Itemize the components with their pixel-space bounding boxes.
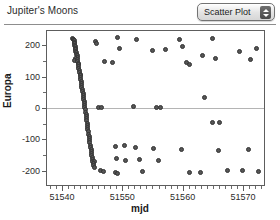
x-tick-minor bbox=[249, 186, 250, 189]
x-tick-label: 51540 bbox=[50, 192, 75, 202]
data-point bbox=[113, 144, 118, 149]
data-point bbox=[140, 169, 145, 174]
x-tick-minor bbox=[140, 186, 141, 189]
data-point bbox=[94, 41, 99, 46]
x-tick-minor bbox=[50, 186, 51, 189]
x-tick-minor bbox=[207, 186, 208, 189]
x-tick-minor bbox=[231, 186, 232, 189]
x-tick-minor bbox=[146, 186, 147, 189]
data-point bbox=[134, 37, 139, 42]
data-point bbox=[101, 169, 106, 174]
data-point bbox=[237, 49, 242, 54]
x-tick-minor bbox=[195, 186, 196, 189]
x-tick-minor bbox=[219, 186, 220, 189]
x-tick-minor bbox=[134, 186, 135, 189]
data-point bbox=[158, 105, 163, 110]
data-point bbox=[256, 169, 261, 174]
data-point bbox=[131, 104, 136, 109]
data-point bbox=[122, 143, 127, 148]
data-point bbox=[115, 171, 120, 176]
x-tick-label: 51560 bbox=[170, 192, 195, 202]
x-tick bbox=[122, 186, 123, 191]
data-point bbox=[240, 168, 245, 173]
x-tick bbox=[243, 186, 244, 191]
x-tick-label: 51550 bbox=[110, 192, 135, 202]
x-tick-minor bbox=[177, 186, 178, 189]
data-point bbox=[115, 35, 120, 40]
x-tick-minor bbox=[56, 186, 57, 189]
scatter-plot-window: Jupiter's Moons Scatter Plot 2001000-100… bbox=[0, 0, 280, 220]
x-tick-minor bbox=[225, 186, 226, 189]
y-axis-title: Europa bbox=[2, 74, 13, 108]
x-tick-minor bbox=[98, 186, 99, 189]
x-tick-minor bbox=[255, 186, 256, 189]
data-point bbox=[225, 168, 230, 173]
x-tick-minor bbox=[201, 186, 202, 189]
x-tick-minor bbox=[165, 186, 166, 189]
x-tick-minor bbox=[189, 186, 190, 189]
data-point bbox=[216, 148, 221, 153]
data-point bbox=[210, 120, 215, 125]
x-tick-minor bbox=[152, 186, 153, 189]
y-tick-label: 100 bbox=[25, 72, 40, 82]
x-tick-minor bbox=[116, 186, 117, 189]
data-point bbox=[213, 56, 218, 61]
data-point bbox=[217, 120, 222, 125]
x-tick-minor bbox=[171, 186, 172, 189]
data-point bbox=[151, 146, 156, 151]
data-point bbox=[180, 44, 185, 49]
x-tick-minor bbox=[80, 186, 81, 189]
x-tick-minor bbox=[213, 186, 214, 189]
data-point bbox=[123, 158, 128, 163]
data-point bbox=[248, 57, 253, 62]
data-point bbox=[117, 46, 122, 51]
y-tick-label: -100 bbox=[22, 134, 40, 144]
x-tick-minor bbox=[68, 186, 69, 189]
data-point bbox=[246, 147, 251, 152]
x-tick-minor bbox=[110, 186, 111, 189]
plot-area bbox=[46, 30, 265, 186]
x-tick-minor bbox=[159, 186, 160, 189]
data-point bbox=[102, 59, 107, 64]
data-point bbox=[163, 47, 168, 52]
data-point bbox=[99, 105, 104, 110]
data-point bbox=[156, 158, 161, 163]
y-tick-label: -200 bbox=[22, 166, 40, 176]
x-tick-minor bbox=[261, 186, 262, 189]
data-point bbox=[150, 48, 155, 53]
x-tick-label: 51570 bbox=[230, 192, 255, 202]
x-tick-minor bbox=[128, 186, 129, 189]
data-point bbox=[92, 165, 97, 170]
data-point bbox=[200, 53, 205, 58]
x-tick-minor bbox=[104, 186, 105, 189]
data-point bbox=[187, 62, 192, 67]
data-point bbox=[110, 60, 115, 65]
data-point bbox=[137, 157, 142, 162]
data-point bbox=[254, 46, 259, 51]
data-point bbox=[133, 145, 138, 150]
data-point bbox=[114, 156, 119, 161]
x-axis-title: mjd bbox=[0, 203, 280, 214]
data-point bbox=[198, 170, 203, 175]
x-tick bbox=[183, 186, 184, 191]
x-tick-minor bbox=[74, 186, 75, 189]
data-points-layer bbox=[47, 31, 264, 185]
data-point bbox=[210, 36, 215, 41]
data-point bbox=[177, 37, 182, 42]
x-tick-minor bbox=[92, 186, 93, 189]
y-tick-label: 200 bbox=[25, 40, 40, 50]
x-tick bbox=[62, 186, 63, 191]
data-point bbox=[187, 170, 192, 175]
data-point bbox=[179, 147, 184, 152]
x-tick-minor bbox=[86, 186, 87, 189]
x-tick-minor bbox=[237, 186, 238, 189]
data-point bbox=[202, 95, 207, 100]
y-tick-label: 0 bbox=[35, 103, 40, 113]
